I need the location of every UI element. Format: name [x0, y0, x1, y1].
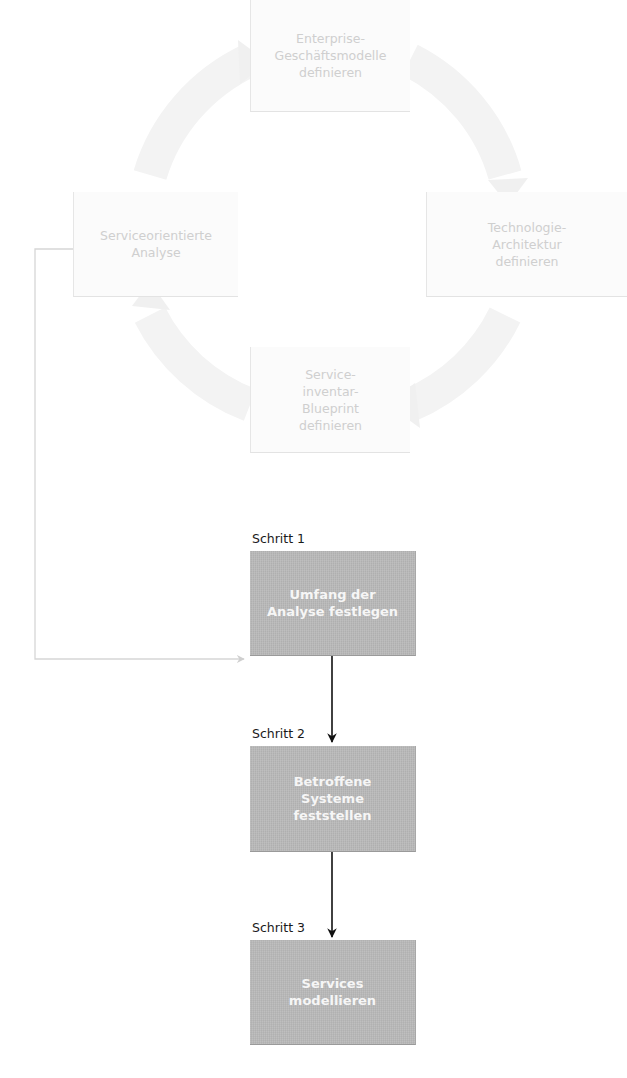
step-2-label: Schritt 2	[252, 727, 305, 741]
cycle-node-enterprise-models: Enterprise- Geschäftsmodelle definieren	[250, 0, 410, 112]
cycle-node-label: Service- inventar- Blueprint definieren	[299, 366, 362, 434]
step-1-box: Umfang der Analyse festlegen	[250, 551, 416, 656]
figure-caption	[30, 1066, 627, 1078]
cycle-node-service-inventory-blueprint: Service- inventar- Blueprint definieren	[250, 347, 410, 453]
cycle-node-label: Technologie- Architektur definieren	[488, 219, 566, 270]
cycle-arrows-and-connectors	[0, 0, 627, 1078]
cycle-node-service-oriented-analysis: Serviceorientierte Analyse	[73, 192, 238, 297]
cycle-node-label: Serviceorientierte Analyse	[100, 227, 212, 261]
step-1-label: Schritt 1	[252, 532, 305, 546]
diagram-canvas: Enterprise- Geschäftsmodelle definieren …	[0, 0, 627, 1078]
cycle-node-technology-architecture: Technologie- Architektur definieren	[426, 192, 627, 297]
cycle-node-label: Enterprise- Geschäftsmodelle definieren	[274, 30, 386, 81]
step-2-text: Betroffene Systeme feststellen	[293, 773, 371, 824]
step-3-label: Schritt 3	[252, 921, 305, 935]
connector-analysis-to-step1	[35, 249, 244, 659]
step-3-box: Services modellieren	[250, 940, 416, 1045]
step-2-box: Betroffene Systeme feststellen	[250, 746, 416, 852]
step-1-text: Umfang der Analyse festlegen	[267, 586, 398, 620]
step-3-text: Services modellieren	[289, 975, 376, 1009]
